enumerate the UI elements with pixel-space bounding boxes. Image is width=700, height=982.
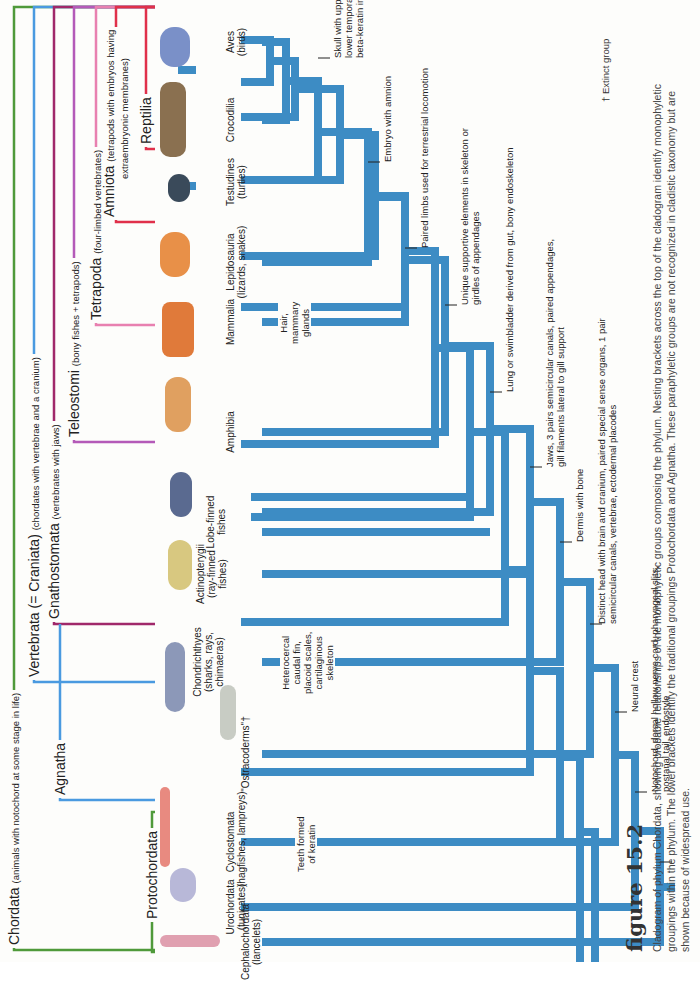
char-jaws: Jaws, 3 pairs semicircular canals, paire… [544,239,566,467]
taxon-lepidosauria: Lepidosauria(lizards, snakes) [225,222,247,302]
taxon-crocodilia: Crocodilia [225,85,236,155]
char-heterocercal: Heterocercalcaudal fin,placoid scales,ca… [280,632,335,694]
char-amnion: Embryo with amnion [382,76,393,162]
figure-caption: Cladogram of phylum Chordata, showing pr… [650,72,692,952]
char-paired-limbs: Paired limbs used for terrestrial locomo… [419,68,430,248]
char-hair: Hair,mammaryglands [278,302,311,344]
taxon-lobe-finned: Lobe-finnedfishes [205,482,227,562]
taxon-testudines: Testudines(turtles) [225,147,247,217]
char-unique-supportive: Unique supportive elements in skeleton o… [459,128,481,305]
taxon-ostracoderms: "Ostracoderms"† [240,714,251,794]
char-teeth-keratin: Teeth formedof keratin [295,817,317,872]
char-dermis: Dermis with bone [574,469,585,542]
char-neural-crest: Neural crest [629,661,640,712]
taxon-cyclostomata: Cyclostomata(hagfishes, lampreys) [225,797,247,887]
taxon-chondrichthyes: Chondrichthyes(sharks, rays,chimaeras) [192,622,225,702]
figure-title: figure 15.2 [622,824,647,952]
char-lung: Lung or swimbladder derived from gut, bo… [504,147,515,392]
char-distinct-head: Distinct head with brain and cranium, pa… [596,318,618,624]
char-skull: Skull with upper andlower temporal fenes… [332,0,365,58]
taxon-amphibia: Amphibia [225,397,236,467]
taxon-aves: Aves(birds) [225,12,247,72]
extinct-legend: † Extinct group [600,39,611,102]
